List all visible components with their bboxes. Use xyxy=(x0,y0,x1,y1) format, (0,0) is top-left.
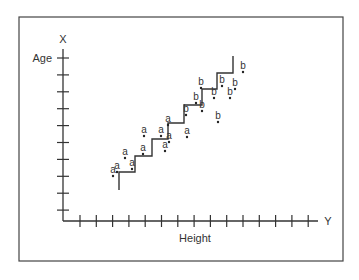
data-point-b: b xyxy=(219,74,225,87)
point-label: b xyxy=(198,76,204,87)
point-label: a xyxy=(114,160,120,171)
point-dot xyxy=(229,97,231,99)
y-axis-title: Age xyxy=(32,52,52,64)
point-label: a xyxy=(140,142,146,153)
data-point-a: a xyxy=(184,125,190,138)
point-label: b xyxy=(227,86,233,97)
point-label: b xyxy=(215,110,221,121)
point-label: a xyxy=(162,139,168,150)
point-label: b xyxy=(240,60,246,71)
point-label: b xyxy=(199,99,205,110)
point-dot xyxy=(131,168,133,170)
data-point-a: a xyxy=(158,124,164,137)
data-point-b: b xyxy=(215,110,221,123)
data-points: aaaaaaaaaaabbbbbbbbbb xyxy=(110,60,246,177)
point-label: b xyxy=(183,103,189,114)
data-point-a: a xyxy=(122,146,128,159)
point-label: a xyxy=(141,124,147,135)
point-dot xyxy=(186,136,188,138)
point-dot xyxy=(160,135,162,137)
point-label: a xyxy=(122,146,128,157)
data-point-b: b xyxy=(198,76,204,89)
point-dot xyxy=(164,150,166,152)
data-point-a: a xyxy=(162,139,168,152)
chart: X Age Y Height aaaaaaaaaaabbbbbbbbbb xyxy=(0,0,359,280)
point-dot xyxy=(234,88,236,90)
point-dot xyxy=(143,135,145,137)
point-label: a xyxy=(158,124,164,135)
point-label: b xyxy=(232,77,238,88)
point-dot xyxy=(200,87,202,89)
data-point-b: b xyxy=(211,86,217,99)
data-point-b: b xyxy=(240,60,246,73)
point-dot xyxy=(112,175,114,177)
data-point-b: b xyxy=(232,77,238,90)
point-dot xyxy=(116,171,118,173)
point-dot xyxy=(201,110,203,112)
chart-frame xyxy=(19,17,343,261)
point-dot xyxy=(242,71,244,73)
point-dot xyxy=(217,121,219,123)
x-axis-letter: Y xyxy=(324,215,332,227)
point-dot xyxy=(124,157,126,159)
data-point-b: b xyxy=(227,86,233,99)
point-label: b xyxy=(211,86,217,97)
step-function-line xyxy=(119,56,233,190)
point-dot xyxy=(185,114,187,116)
point-dot xyxy=(195,102,197,104)
point-label: a xyxy=(165,113,171,124)
point-dot xyxy=(221,85,223,87)
point-dot xyxy=(142,153,144,155)
data-point-b: b xyxy=(199,99,205,112)
data-point-a: a xyxy=(165,113,171,126)
x-axis-title: Height xyxy=(179,232,211,244)
point-label: b xyxy=(219,74,225,85)
point-dot xyxy=(213,97,215,99)
y-axis-letter: X xyxy=(59,33,67,45)
point-dot xyxy=(168,141,170,143)
point-label: a xyxy=(129,157,135,168)
point-label: a xyxy=(184,125,190,136)
point-dot xyxy=(167,124,169,126)
data-point-a: a xyxy=(141,124,147,137)
data-point-a: a xyxy=(140,142,146,155)
